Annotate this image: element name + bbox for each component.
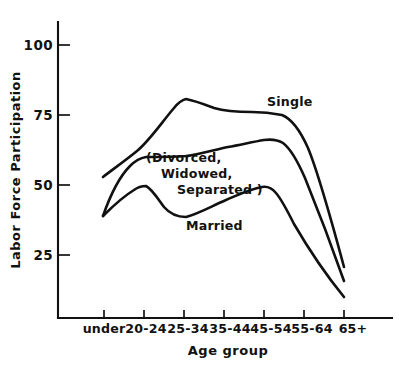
x-tick-label-under: under	[83, 321, 126, 336]
x-axis-title: Age group	[188, 343, 268, 358]
x-tick-label-65plus: 65+	[339, 321, 368, 336]
y-axis-title: Labor Force Participation	[8, 71, 23, 269]
x-tick-label-55-64: 55-64	[291, 321, 332, 336]
x-tick-label-35-44: 35-44	[209, 321, 250, 336]
x-tick-labels: under 20-24 25-34 35-44 45-54 55-64 65+	[83, 321, 368, 336]
y-tick-label-75: 75	[33, 107, 53, 123]
x-tick-label-25-34: 25-34	[167, 321, 208, 336]
series-label-married: Married	[186, 218, 243, 233]
y-tick-labels: 100 75 50 25	[24, 37, 53, 263]
dws-label-line-3: Separated )	[177, 182, 263, 197]
x-tick-marks	[104, 310, 344, 318]
y-tick-marks	[58, 45, 70, 255]
series-label-divorced-widowed-separated: (Divorced, Widowed, Separated )	[146, 150, 263, 197]
y-tick-label-50: 50	[33, 177, 53, 193]
series-label-single: Single	[267, 94, 312, 109]
y-tick-label-100: 100	[24, 37, 53, 53]
x-tick-label-45-54: 45-54	[250, 321, 291, 336]
chart-canvas: 100 75 50 25 under 20-24 25-34 35-44 45-…	[0, 0, 399, 370]
series-line-divorced-widowed-separated	[103, 140, 344, 281]
dws-label-line-2: Widowed,	[161, 166, 232, 181]
y-tick-label-25: 25	[33, 247, 53, 263]
chart-figure: 100 75 50 25 under 20-24 25-34 35-44 45-…	[0, 0, 399, 370]
dws-label-line-1: (Divorced,	[146, 150, 221, 165]
x-tick-label-20-24: 20-24	[125, 321, 166, 336]
series-line-married	[103, 186, 344, 297]
